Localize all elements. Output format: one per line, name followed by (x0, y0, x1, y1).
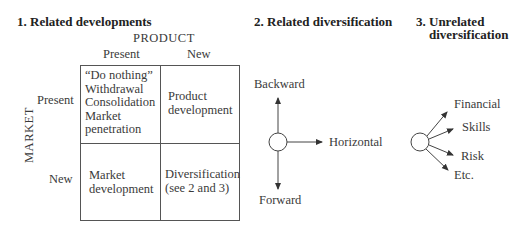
section-1-title: 1. Related developments (17, 14, 152, 30)
section-2-title: 2. Related diversification (254, 14, 392, 30)
cell-new-present: Market development (89, 169, 154, 196)
cell-line: “Do nothing” (85, 69, 155, 83)
column-header-new: New (187, 47, 211, 62)
market-axis-label: MARKET (22, 107, 37, 163)
cell-new-new: Diversification (see 2 and 3) (165, 168, 240, 195)
branch-etc: Etc. (454, 168, 474, 183)
cell-line: Diversification (165, 168, 240, 182)
row-header-present: Present (37, 93, 74, 108)
cell-present-new: Product development (168, 90, 233, 117)
branch-skills: Skills (462, 120, 491, 135)
column-header-present: Present (103, 47, 140, 62)
cell-line: penetration (85, 123, 155, 137)
cell-line: Market (85, 110, 155, 124)
cell-line: (see 2 and 3) (165, 182, 240, 196)
direction-backward: Backward (254, 77, 305, 92)
cell-line: Market (89, 169, 154, 183)
cell-line: Product (168, 90, 233, 104)
unrelated-diversification-graphic (411, 112, 453, 170)
cell-line: development (168, 104, 233, 118)
cell-line: Consolidation (85, 96, 155, 110)
product-axis-label: PRODUCT (133, 31, 195, 46)
direction-forward: Forward (259, 193, 301, 208)
cell-line: development (89, 183, 154, 197)
cell-present-present: “Do nothing” Withdrawal Consolidation Ma… (85, 69, 155, 137)
related-diversification-graphic (269, 98, 322, 189)
section-3-title-line2: diversification (429, 27, 508, 43)
branch-risk: Risk (461, 149, 484, 164)
row-header-new: New (49, 172, 73, 187)
direction-horizontal: Horizontal (329, 135, 382, 150)
cell-line: Withdrawal (85, 83, 155, 97)
branch-financial: Financial (454, 97, 501, 112)
